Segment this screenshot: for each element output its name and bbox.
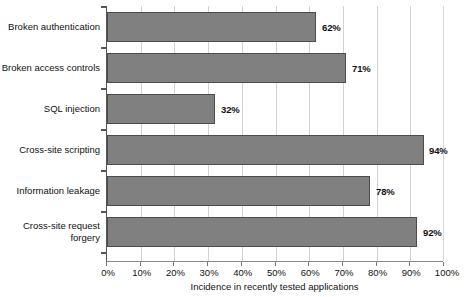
x-axis-tick — [207, 262, 208, 266]
bar-value-label: 71% — [352, 63, 371, 74]
bar — [107, 176, 370, 206]
x-axis-tick — [173, 262, 174, 266]
x-axis-tick — [308, 262, 309, 266]
x-axis-tick-label: 50% — [267, 267, 286, 278]
x-axis-tick-label: 80% — [368, 267, 387, 278]
x-axis-tick-label: 60% — [301, 267, 320, 278]
gridline — [443, 6, 444, 261]
x-axis-tick — [241, 262, 242, 266]
bar — [107, 12, 316, 42]
category-label: Information leakage — [0, 185, 100, 197]
x-axis-tick-label: 10% — [132, 267, 151, 278]
x-axis-tick-label: 40% — [233, 267, 252, 278]
x-axis-title: Incidence in recently tested application… — [106, 281, 443, 292]
bar — [107, 217, 417, 247]
x-axis-tick — [275, 262, 276, 266]
bar-value-label: 92% — [423, 227, 442, 238]
x-axis-tick-label: 70% — [334, 267, 353, 278]
bar — [107, 53, 346, 83]
category-label: Cross-site scripting — [0, 144, 100, 156]
bar-value-label: 32% — [221, 104, 240, 115]
bar-value-label: 94% — [429, 145, 448, 156]
x-axis-tick — [376, 262, 377, 266]
x-axis-tick-label: 0% — [101, 267, 115, 278]
x-axis-tick-label: 90% — [402, 267, 421, 278]
x-axis-tick — [140, 262, 141, 266]
x-axis-tick-label: 30% — [200, 267, 219, 278]
plot-area: 62% 71% 32% 94% 78% 92% — [106, 6, 443, 262]
bar-value-label: 78% — [376, 186, 395, 197]
bar-chart: Broken authentication Broken access cont… — [0, 0, 468, 297]
category-label: Cross-site request forgery — [0, 220, 100, 243]
category-label: Broken authentication — [0, 21, 100, 33]
category-label: SQL injection — [0, 103, 100, 115]
category-label: Broken access controls — [0, 62, 100, 74]
bar-value-label: 62% — [322, 22, 341, 33]
x-axis-tick — [443, 262, 444, 266]
x-axis-tick — [106, 262, 107, 266]
x-axis-tick — [409, 262, 410, 266]
x-axis-tick-label: 100% — [435, 267, 459, 278]
x-axis-tick — [342, 262, 343, 266]
bar — [107, 94, 215, 124]
x-axis-tick-label: 20% — [166, 267, 185, 278]
bar — [107, 135, 424, 165]
